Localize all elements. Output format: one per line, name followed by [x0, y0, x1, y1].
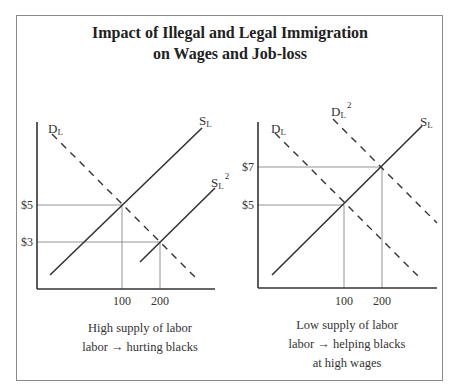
right-caption-line-2: labor → helping blacks — [262, 335, 432, 354]
left-guides — [37, 205, 160, 289]
left-xtick-200: 200 — [151, 294, 169, 308]
left-chart: DL SL SL2 $5 $3 100 200 — [21, 113, 229, 308]
right-caption-line-3: at high wages — [262, 354, 432, 373]
right-demand2-label: DL2 — [331, 100, 351, 120]
left-caption: High supply of labor labor → hurting bla… — [40, 319, 240, 357]
right-xtick-200: 200 — [373, 294, 391, 308]
right-caption: Low supply of labor labor → helping blac… — [262, 316, 432, 373]
right-chart: DL DL2 SL $7 $5 100 200 — [242, 100, 437, 308]
right-caption-line-1: Low supply of labor — [262, 316, 432, 335]
right-demand-curve — [275, 133, 418, 276]
right-ytick-7: $7 — [242, 160, 254, 174]
left-xtick-100: 100 — [113, 294, 131, 308]
left-caption-line-1: High supply of labor — [40, 319, 240, 338]
left-supply-curve — [50, 128, 202, 275]
right-supply-label: SL — [420, 114, 433, 130]
right-demand-label: DL — [271, 121, 286, 137]
left-demand-label: DL — [48, 121, 63, 137]
right-ytick-5: $5 — [242, 198, 254, 212]
left-supply2-label: SL2 — [211, 171, 229, 191]
left-ytick-5: $5 — [21, 198, 33, 212]
right-supply-curve — [272, 126, 422, 275]
left-caption-line-2: labor → hurting blacks — [40, 338, 240, 357]
left-supply2-curve — [140, 188, 215, 262]
left-supply-label: SL — [199, 113, 212, 129]
left-ytick-3: $3 — [21, 235, 33, 249]
left-axes — [37, 122, 215, 289]
right-xtick-100: 100 — [335, 294, 353, 308]
